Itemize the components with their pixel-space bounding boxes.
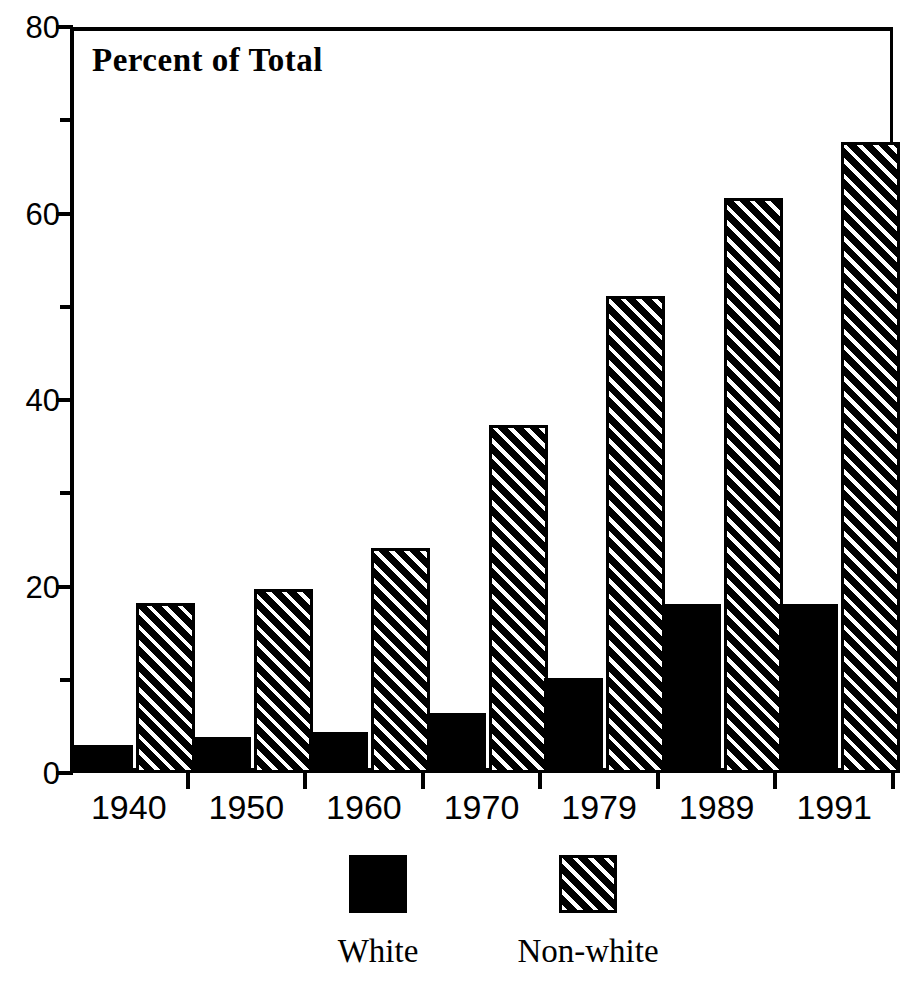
- bar-1991-non-white: [841, 142, 900, 773]
- y-tick-label: 20: [8, 571, 60, 602]
- bar-1940-white: [74, 745, 133, 773]
- bar-chart: Percent of Total 806040200 1940195019601…: [0, 0, 904, 992]
- bar-1970-white: [427, 713, 486, 773]
- x-tick-mark: [421, 773, 425, 789]
- bar-1979-white: [544, 678, 603, 773]
- x-tick-label: 1970: [444, 790, 520, 824]
- legend-item-white: White: [278, 855, 478, 968]
- y-tick-label: 40: [8, 385, 60, 416]
- y-axis: 806040200: [0, 0, 60, 992]
- bar-1950-non-white: [254, 589, 313, 773]
- bar-1940-non-white: [136, 603, 195, 773]
- x-tick-label: 1991: [796, 790, 872, 824]
- bar-1970-non-white: [489, 425, 548, 773]
- x-tick-label: 1960: [326, 790, 402, 824]
- bar-1989-non-white: [724, 198, 783, 773]
- legend-label: White: [278, 935, 478, 968]
- legend-swatch-solid: [349, 855, 407, 913]
- y-tick-label: 80: [8, 12, 60, 43]
- x-tick-label: 1979: [561, 790, 637, 824]
- chart-legend: WhiteNon-white: [0, 855, 904, 992]
- x-tick-mark: [303, 773, 307, 789]
- legend-label: Non-white: [488, 935, 688, 968]
- y-tick-label: 0: [8, 758, 60, 789]
- x-tick-mark: [538, 773, 542, 789]
- bar-1950-white: [192, 737, 251, 773]
- bar-1991-white: [779, 604, 838, 773]
- bar-1960-white: [309, 732, 368, 773]
- x-tick-label: 1950: [209, 790, 285, 824]
- x-tick-label: 1989: [679, 790, 755, 824]
- y-tick-label: 60: [8, 198, 60, 229]
- x-tick-label: 1940: [91, 790, 167, 824]
- legend-swatch-hatch: [559, 855, 617, 913]
- x-tick-mark: [186, 773, 190, 789]
- x-tick-mark: [891, 773, 895, 789]
- bars-layer: [70, 27, 893, 773]
- x-tick-mark: [773, 773, 777, 789]
- bar-1960-non-white: [371, 548, 430, 773]
- bar-1989-white: [662, 604, 721, 773]
- x-tick-mark: [656, 773, 660, 789]
- legend-item-non-white: Non-white: [488, 855, 688, 968]
- bar-1979-non-white: [606, 296, 665, 773]
